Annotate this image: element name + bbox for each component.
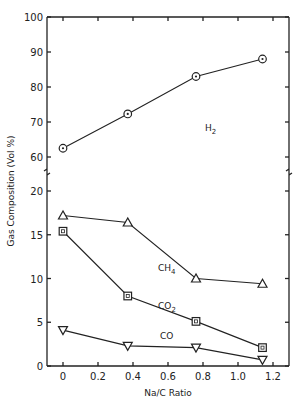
- circle-marker-dot: [62, 147, 64, 149]
- circle-marker-dot: [261, 58, 263, 60]
- series-h2: H2: [59, 55, 266, 152]
- y-tick-label: 0: [37, 361, 43, 372]
- y-tick-label: 10: [30, 274, 43, 285]
- series-label: CH4: [158, 263, 176, 276]
- y-tick-label: 80: [30, 82, 43, 93]
- triangle-down-marker: [258, 356, 267, 364]
- x-tick-label: 0.4: [125, 371, 141, 382]
- x-tick-label: 0.6: [160, 371, 176, 382]
- triangle-up-marker: [59, 211, 68, 219]
- y-tick-label: 5: [37, 317, 43, 328]
- x-tick-label: 1.2: [265, 371, 281, 382]
- line-chart: 00.20.40.60.81.01.20510152060708090100 H…: [0, 0, 303, 403]
- x-tick-label: 0.8: [195, 371, 211, 382]
- y-tick-label: 70: [30, 117, 43, 128]
- series-line: [63, 216, 263, 284]
- square-marker: [192, 318, 200, 326]
- triangle-up-marker: [192, 274, 201, 282]
- series-co: CO: [59, 327, 268, 365]
- square-marker: [259, 344, 267, 352]
- series-label: H2: [205, 123, 216, 136]
- series-label: CO2: [158, 301, 176, 314]
- circle-marker-dot: [195, 75, 197, 77]
- series-label: CO: [160, 331, 173, 341]
- square-marker: [59, 227, 67, 235]
- series-line: [63, 59, 263, 148]
- y-axis-title: Gas Composition (Vol %): [6, 135, 16, 246]
- x-axis-title: Na/C Ratio: [144, 388, 192, 398]
- y-tick-label: 60: [30, 152, 43, 163]
- y-tick-label: 15: [30, 230, 43, 241]
- y-tick-label: 20: [30, 186, 43, 197]
- series-group: H2CH4CO2CO: [59, 55, 268, 364]
- x-tick-label: 0: [60, 371, 66, 382]
- y-tick-label: 100: [24, 12, 43, 23]
- series-ch4: CH4: [59, 211, 268, 287]
- circle-marker-dot: [127, 113, 129, 115]
- y-tick-label: 90: [30, 47, 43, 58]
- x-tick-label: 1.0: [230, 371, 246, 382]
- y-axis-break-mark: [44, 169, 50, 175]
- x-tick-label: 0.2: [90, 371, 106, 382]
- square-marker: [124, 292, 132, 300]
- right-axis-break-mark: [286, 169, 292, 175]
